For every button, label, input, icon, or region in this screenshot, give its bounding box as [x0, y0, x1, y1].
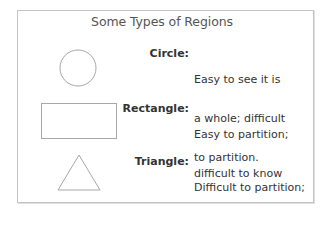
region-label: Circle:: [150, 47, 189, 60]
region-description: Difficult to partition; difficult to kno…: [194, 155, 305, 208]
circle-shape: [60, 50, 96, 86]
region-label: Rectangle:: [123, 102, 189, 115]
triangle-shape: [58, 155, 100, 190]
description-line: Easy to partition;: [194, 128, 288, 141]
rectangle-shape: [42, 104, 117, 139]
description-line: Difficult to partition;: [194, 181, 305, 194]
description-line: Easy to see it is: [194, 73, 285, 86]
region-label: Triangle:: [135, 155, 189, 168]
